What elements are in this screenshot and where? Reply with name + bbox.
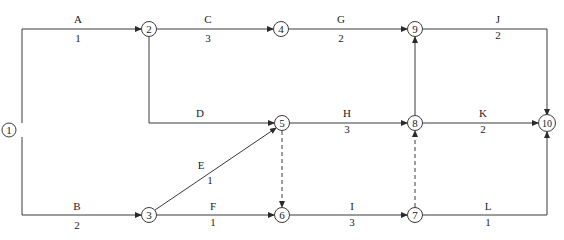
activity-b-name: B [73,200,80,212]
activity-c-duration: 3 [205,32,211,44]
svg-text:4: 4 [278,23,284,35]
svg-text:6: 6 [279,209,285,221]
activity-j-arrow: J 2 [423,13,547,115]
activity-a-arrow: A 1 [22,13,141,123]
activity-k-arrow: K 2 [423,107,538,135]
activity-h-duration: 3 [344,123,350,135]
activity-k-name: K [479,107,487,119]
node-7: 7 [408,208,423,223]
activity-c-name: C [204,13,211,25]
svg-text:9: 9 [412,23,418,35]
activity-l-arrow: L 1 [423,132,547,228]
svg-text:3: 3 [146,209,152,221]
activity-g-name: G [337,13,345,25]
activity-b-arrow: B 2 [22,137,141,231]
activity-f-name: F [210,200,216,212]
activity-i-name: I [350,200,354,212]
activity-h-name: H [343,107,351,119]
node-6: 6 [275,208,290,223]
activity-e-duration: 1 [207,174,213,186]
node-8: 8 [408,116,423,131]
svg-text:7: 7 [412,209,418,221]
node-1: 1 [2,123,16,137]
activity-a-duration: 1 [75,32,81,44]
svg-text:10: 10 [542,118,552,129]
activity-j-name: J [496,13,501,25]
node-9: 9 [408,22,423,37]
activity-d-name: D [196,107,204,119]
node-3: 3 [142,208,157,223]
activity-i-duration: 3 [349,216,355,228]
svg-text:8: 8 [412,117,418,129]
svg-text:2: 2 [146,23,152,35]
activity-i-arrow: I 3 [290,200,407,228]
activity-j-duration: 2 [495,29,501,41]
node-5: 5 [275,116,290,131]
activity-f-arrow: F 1 [157,200,274,228]
activity-k-duration: 2 [480,123,486,135]
activity-g-arrow: G 2 [289,13,407,44]
activity-a-name: A [74,13,82,25]
network-diagram: A 1 B 2 C 3 D E 1 F 1 G 2 H 3 [0,0,564,240]
activity-e-name: E [198,159,205,171]
activity-l-name: L [485,200,492,212]
activity-f-duration: 1 [210,216,216,228]
activity-b-duration: 2 [74,219,80,231]
activity-e-arrow: E 1 [155,128,276,210]
svg-text:1: 1 [6,124,12,136]
activity-h-arrow: H 3 [290,107,407,135]
node-10: 10 [539,115,556,132]
node-2: 2 [142,22,157,37]
activity-c-arrow: C 3 [157,13,273,44]
activity-l-duration: 1 [485,216,491,228]
svg-text:5: 5 [279,117,285,129]
node-4: 4 [274,22,289,37]
activity-d-arrow: D [149,37,274,123]
activity-g-duration: 2 [338,32,344,44]
